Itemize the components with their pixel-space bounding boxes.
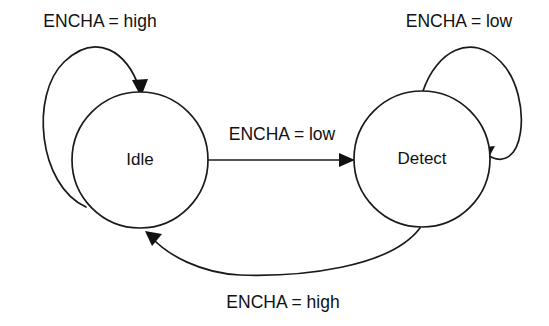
state-diagram-svg: Idle Detect ENCHA = high ENCHA = low ENC… [0, 0, 549, 326]
detect-to-idle-arrowhead [145, 231, 162, 246]
transition-detect-to-idle [145, 228, 420, 275]
transition-idle-to-detect [209, 153, 355, 167]
detect-self-loop-label: ENCHA = low [406, 11, 513, 31]
detect-to-idle-label: ENCHA = high [226, 292, 339, 312]
state-node-detect[interactable]: Detect [354, 91, 490, 227]
state-diagram-canvas: Idle Detect ENCHA = high ENCHA = low ENC… [0, 0, 549, 326]
detect-to-idle-path [152, 228, 420, 275]
idle-state-label: Idle [126, 150, 153, 169]
state-node-idle[interactable]: Idle [72, 92, 208, 228]
detect-state-label: Detect [397, 149, 446, 168]
idle-to-detect-label: ENCHA = low [229, 124, 336, 144]
idle-self-loop-label: ENCHA = high [43, 11, 156, 31]
idle-to-detect-arrowhead [339, 153, 355, 167]
